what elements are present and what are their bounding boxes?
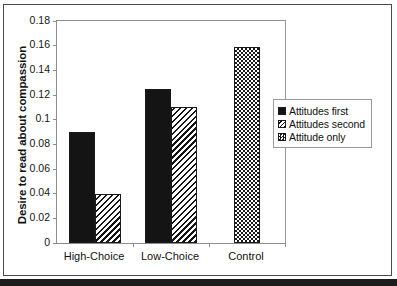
y-tick-label: 0.08 [30, 137, 50, 149]
legend-item-label: Attitudes second [289, 118, 365, 130]
legend-item-label: Attitude only [289, 131, 346, 143]
y-tick-mark [53, 243, 57, 244]
y-tick-mark [53, 169, 57, 170]
legend-item: Attitude only [278, 130, 365, 143]
y-tick-mark [53, 21, 57, 22]
figure-root: Desire to read about compassion 0.180.16… [0, 0, 397, 286]
y-tick-label: 0.02 [30, 211, 50, 223]
x-axis-label-control: Control [228, 250, 263, 262]
y-tick-label: 0.14 [30, 63, 50, 75]
y-tick-mark [53, 45, 57, 46]
scan-edge-shadow [0, 279, 397, 286]
y-tick-label: 0.04 [30, 186, 50, 198]
y-tick-mark [53, 95, 57, 96]
legend-item: Attitudes first [278, 104, 365, 117]
y-tick-mark [53, 70, 57, 71]
diagonal-hatch-swatch [278, 120, 286, 128]
y-tick-label: 0 [44, 236, 50, 248]
y-tick-label: 0.06 [30, 162, 50, 174]
solid-black-swatch [278, 107, 286, 115]
y-tick-label: 0.1 [35, 112, 50, 124]
y-tick-mark [53, 144, 57, 145]
y-tick-mark [53, 119, 57, 120]
y-tick-mark [53, 218, 57, 219]
x-axis-label-low-choice: Low-Choice [141, 250, 199, 262]
bar-high-choice-series1 [69, 132, 95, 243]
y-tick-label: 0.12 [30, 88, 50, 100]
y-tick-label: 0.16 [30, 38, 50, 50]
checkered-swatch [278, 133, 286, 141]
x-axis-labels: High-ChoiceLow-ChoiceControl [56, 250, 286, 270]
x-axis-tick-mark [209, 243, 210, 247]
x-axis-tick-mark [133, 243, 134, 247]
bar-control-series3 [234, 47, 260, 243]
plot-area: 0.180.160.140.120.10.080.060.040.020 [56, 20, 286, 244]
legend-item-label: Attitudes first [289, 105, 348, 117]
bar-high-choice-series2 [95, 194, 121, 243]
bar-low-choice-series1 [145, 89, 171, 243]
y-axis-title: Desire to read about compassion [16, 20, 28, 250]
chart-legend: Attitudes firstAttitudes secondAttitude … [273, 99, 372, 148]
y-tick-mark [53, 193, 57, 194]
legend-item: Attitudes second [278, 117, 365, 130]
x-axis-tick-mark [285, 243, 286, 247]
y-tick-label: 0.18 [30, 14, 50, 26]
bar-low-choice-series2 [171, 107, 197, 243]
x-axis-label-high-choice: High-Choice [64, 250, 125, 262]
